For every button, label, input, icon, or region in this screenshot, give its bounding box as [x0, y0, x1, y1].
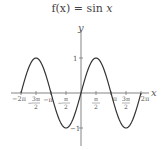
- x-axis-label: x: [151, 87, 157, 98]
- plot-area: x y 1 −1 −2π3π2−−ππ2−π2π3π22π: [0, 0, 164, 150]
- x-tick-label: 2: [34, 103, 38, 110]
- y-axis-label: y: [77, 22, 84, 33]
- x-tick-label: 2: [124, 103, 128, 110]
- x-tick-label: −: [57, 99, 62, 106]
- x-tick-label: 2π: [141, 95, 150, 103]
- x-tick-label: −: [27, 99, 32, 106]
- y-tick-label-1: 1: [73, 55, 77, 63]
- x-tick-label: π: [64, 95, 68, 102]
- x-tick-label: −2π: [12, 95, 27, 103]
- x-tick-label: 3π: [32, 95, 40, 102]
- x-tick-label: 2: [94, 103, 98, 110]
- x-tick-label: 2: [64, 103, 68, 110]
- y-tick-label-neg1: −1: [70, 125, 80, 133]
- x-tick-label: 3π: [122, 95, 130, 102]
- x-tick-label: π: [94, 95, 98, 102]
